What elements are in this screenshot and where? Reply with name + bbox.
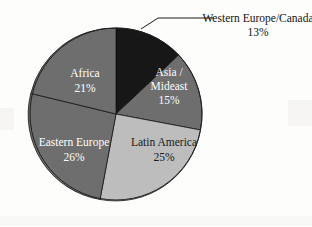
pie-chart-figure: Western Europe/Canada 13% Africa 21% Asi…	[0, 0, 312, 227]
pie-chart-svg: Western Europe/Canada 13% Africa 21% Asi…	[0, 0, 312, 227]
callout-value-western-europe-canada: 13%	[247, 26, 269, 38]
callout-label-western-europe-canada: Western Europe/Canada	[202, 12, 312, 25]
pie-slice-latin-america[interactable]	[100, 114, 200, 201]
